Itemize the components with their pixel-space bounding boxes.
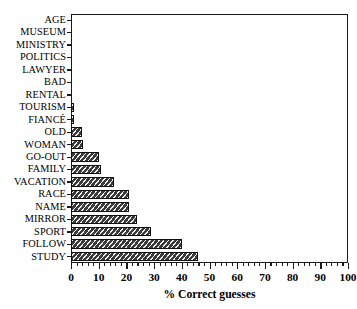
bar-row [71, 238, 348, 250]
x-axis-major-tick [320, 263, 321, 269]
bar [71, 215, 137, 224]
bar-row [71, 213, 348, 225]
y-axis-label-fianc-: FIANCÉ [0, 114, 66, 126]
x-axis-major-tick [210, 263, 211, 269]
bar [71, 127, 82, 136]
bar-row [71, 101, 348, 113]
bar [71, 252, 198, 261]
x-axis-tick-label: 10 [93, 270, 104, 284]
y-axis-tick [67, 69, 72, 70]
bar-row [71, 139, 348, 151]
bar-row [71, 251, 348, 263]
bar-row [71, 126, 348, 138]
bar-row [71, 64, 348, 76]
x-axis-tick-label: 100 [339, 270, 356, 284]
y-axis-tick [67, 244, 72, 245]
x-axis-major-tick [71, 263, 72, 269]
bar [71, 177, 114, 186]
bar-row [71, 188, 348, 200]
y-axis-tick [67, 194, 72, 195]
bar-row [71, 39, 348, 51]
bar-row [71, 14, 348, 26]
y-axis-label-woman: WOMAN [0, 139, 66, 151]
bar [71, 152, 99, 161]
bar [71, 227, 151, 236]
x-axis-major-tick [99, 263, 100, 269]
y-axis-label-vacation: VACATION [0, 176, 66, 188]
x-axis-major-tick [237, 263, 238, 269]
x-axis-tick-label: 0 [68, 270, 74, 284]
x-axis-tick-label: 90 [315, 270, 326, 284]
x-axis-tick-label: 20 [121, 270, 132, 284]
bar-row [71, 151, 348, 163]
y-axis-tick [67, 132, 72, 133]
y-axis-tick [67, 82, 72, 83]
x-axis-tick-label: 30 [148, 270, 159, 284]
y-axis-label-go-out: GO-OUT [0, 151, 66, 163]
y-axis-label-follow: FOLLOW [0, 238, 66, 250]
y-axis-label-race: RACE [0, 188, 66, 200]
y-axis-label-study: STUDY [0, 251, 66, 263]
y-axis-tick [67, 94, 72, 95]
bar-row [71, 89, 348, 101]
y-axis-label-rental: RENTAL [0, 89, 66, 101]
y-axis-category-labels: AGEMUSEUMMINISTRYPOLITICSLAWYERBADRENTAL… [0, 14, 66, 263]
x-axis-title: % Correct guesses [71, 288, 348, 301]
bar-row [71, 201, 348, 213]
bar-row [71, 226, 348, 238]
y-axis-tick [67, 44, 72, 45]
y-axis-tick [67, 181, 72, 182]
x-axis-tick-label: 40 [176, 270, 187, 284]
x-axis-major-tick [126, 263, 127, 269]
y-axis-label-ministry: MINISTRY [0, 39, 66, 51]
y-axis-label-politics: POLITICS [0, 51, 66, 63]
bar-row [71, 76, 348, 88]
x-axis-tick-label: 70 [259, 270, 270, 284]
y-axis-tick [67, 107, 72, 108]
x-axis-tick-label: 60 [231, 270, 242, 284]
bar-chart: AGEMUSEUMMINISTRYPOLITICSLAWYERBADRENTAL… [0, 0, 357, 309]
bar-row [71, 114, 348, 126]
y-axis-tick [67, 57, 72, 58]
y-axis-tick [67, 256, 72, 257]
bar [71, 202, 129, 211]
bar-row [71, 51, 348, 63]
y-axis-tick [67, 169, 72, 170]
y-axis-tick [67, 144, 72, 145]
y-axis-label-old: OLD [0, 126, 66, 138]
y-axis-label-bad: BAD [0, 76, 66, 88]
x-axis-major-tick [154, 263, 155, 269]
x-axis-tick-label: 50 [204, 270, 215, 284]
y-axis-label-sport: SPORT [0, 226, 66, 238]
y-axis-tick [67, 206, 72, 207]
x-axis-major-tick [265, 263, 266, 269]
bars-layer [71, 14, 348, 263]
y-axis-label-age: AGE [0, 14, 66, 26]
x-axis-tick-label: 80 [287, 270, 298, 284]
bar [71, 140, 83, 149]
y-axis-label-mirror: MIRROR [0, 213, 66, 225]
y-axis-label-family: FAMILY [0, 163, 66, 175]
bar-row [71, 176, 348, 188]
y-axis-tick [67, 32, 72, 33]
y-axis-tick [67, 219, 72, 220]
y-axis-tick [67, 119, 72, 120]
y-axis-tick [67, 231, 72, 232]
bar [71, 239, 182, 248]
x-axis-major-tick [182, 263, 183, 269]
bar [71, 190, 129, 199]
y-axis-label-lawyer: LAWYER [0, 64, 66, 76]
x-axis-major-tick [293, 263, 294, 269]
y-axis-tick [67, 157, 72, 158]
x-axis-tick-labels: 0102030405060708090100 [0, 270, 357, 286]
bar-row [71, 163, 348, 175]
y-axis-label-tourism: TOURISM [0, 101, 66, 113]
bar [71, 165, 101, 174]
y-axis-tick [67, 20, 72, 21]
y-axis-label-museum: MUSEUM [0, 26, 66, 38]
bar-row [71, 26, 348, 38]
x-axis-major-tick [348, 263, 349, 269]
y-axis-label-name: NAME [0, 201, 66, 213]
